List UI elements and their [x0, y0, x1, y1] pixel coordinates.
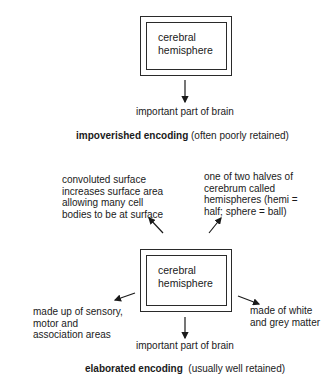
impoverished-caption-rest: (often poorly retained)	[188, 130, 289, 141]
bottom-box-line2: hemisphere	[158, 277, 226, 290]
top-right-label: one of two halves of cerebrum called hem…	[204, 171, 298, 217]
top-concept-box: cerebral hemisphere	[146, 22, 227, 70]
top-right-arrow	[209, 218, 221, 233]
top-box-line1: cerebral	[158, 31, 226, 44]
left-label: made up of sensory, motor and associatio…	[33, 306, 123, 341]
bottom-box-line1: cerebral	[158, 264, 226, 277]
top-arrow-label: important part of brain	[136, 106, 234, 118]
left-arrow	[115, 293, 135, 300]
right-arrow	[238, 296, 259, 304]
elaborated-caption-rest: (usually well retained)	[183, 363, 285, 374]
elaborated-caption-bold: elaborated encoding	[85, 363, 183, 374]
impoverished-caption-bold: impoverished encoding	[76, 130, 188, 141]
impoverished-caption: impoverished encoding (often poorly reta…	[76, 130, 289, 141]
bottom-concept-box: cerebral hemisphere	[146, 255, 227, 306]
top-left-label: convoluted surface increases surface are…	[62, 174, 163, 220]
top-box-line2: hemisphere	[158, 44, 226, 57]
elaborated-caption: elaborated encoding (usually well retain…	[85, 363, 285, 374]
right-label: made of white and grey matter	[250, 305, 320, 328]
bottom-arrow-label: important part of brain	[136, 340, 234, 352]
